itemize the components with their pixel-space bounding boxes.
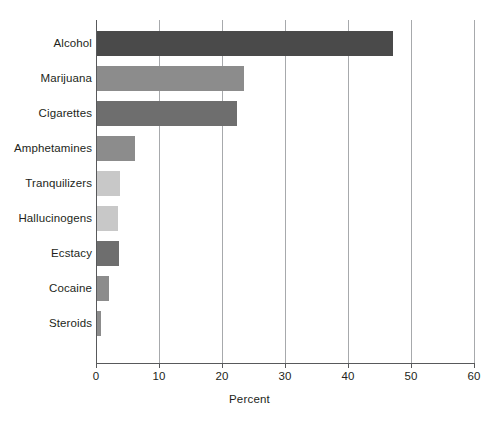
x-tick-label-40: 40: [341, 370, 354, 382]
bar-row: Cocaine: [0, 276, 499, 301]
bar-cocaine: [97, 276, 109, 301]
x-tick-label-20: 20: [215, 370, 228, 382]
category-label-cocaine: Cocaine: [4, 276, 92, 301]
category-label-wrap: Alcohol: [0, 31, 92, 56]
x-tick-20: [222, 363, 223, 368]
x-axis-title: Percent: [0, 393, 499, 405]
category-label-marijuana: Marijuana: [4, 66, 92, 91]
bar-row: Alcohol: [0, 31, 499, 56]
bar-row: Cigarettes: [0, 101, 499, 126]
x-tick-label-30: 30: [278, 370, 291, 382]
category-label-wrap: Hallucinogens: [0, 206, 92, 231]
bar-amphetamines: [97, 136, 135, 161]
category-label-wrap: Ecstacy: [0, 241, 92, 266]
category-label-alcohol: Alcohol: [4, 31, 92, 56]
category-label-wrap: Cocaine: [0, 276, 92, 301]
bar-steroids: [97, 311, 101, 336]
x-tick-label-60: 60: [467, 370, 480, 382]
x-tick-40: [348, 363, 349, 368]
bar-hallucinogens: [97, 206, 118, 231]
bar-row: Steroids: [0, 311, 499, 336]
category-label-wrap: Steroids: [0, 311, 92, 336]
bar-row: Ecstacy: [0, 241, 499, 266]
bar-row: Tranquilizers: [0, 171, 499, 196]
bar-row: Hallucinogens: [0, 206, 499, 231]
x-tick-50: [411, 363, 412, 368]
bar-row: Marijuana: [0, 66, 499, 91]
category-label-amphetamines: Amphetamines: [4, 136, 92, 161]
x-tick-60: [474, 363, 475, 368]
bar-ecstacy: [97, 241, 119, 266]
x-tick-label-0: 0: [93, 370, 100, 382]
x-tick-0: [96, 363, 97, 368]
category-label-steroids: Steroids: [4, 311, 92, 336]
category-label-wrap: Cigarettes: [0, 101, 92, 126]
bar-chart: 0102030405060 AlcoholMarijuanaCigarettes…: [0, 0, 499, 424]
x-tick-10: [159, 363, 160, 368]
category-label-wrap: Marijuana: [0, 66, 92, 91]
bar-row: Amphetamines: [0, 136, 499, 161]
bar-tranquilizers: [97, 171, 120, 196]
category-label-tranquilizers: Tranquilizers: [4, 171, 92, 196]
x-tick-30: [285, 363, 286, 368]
category-label-wrap: Tranquilizers: [0, 171, 92, 196]
x-tick-label-10: 10: [152, 370, 165, 382]
bar-alcohol: [97, 31, 393, 56]
bar-cigarettes: [97, 101, 237, 126]
category-label-hallucinogens: Hallucinogens: [4, 206, 92, 231]
bar-marijuana: [97, 66, 244, 91]
x-tick-label-50: 50: [404, 370, 417, 382]
category-label-ecstacy: Ecstacy: [4, 241, 92, 266]
category-label-wrap: Amphetamines: [0, 136, 92, 161]
category-label-cigarettes: Cigarettes: [4, 101, 92, 126]
